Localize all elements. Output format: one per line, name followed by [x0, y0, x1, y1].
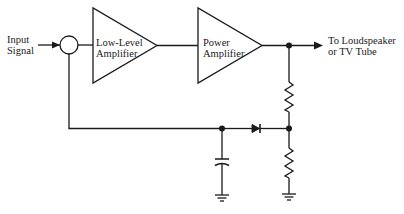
diode-icon — [252, 124, 260, 133]
ground-capacitor-icon — [215, 195, 229, 201]
output-label-line2: or TV Tube — [328, 46, 377, 57]
resistor-lower-icon — [285, 148, 293, 178]
feedback-wire — [69, 54, 222, 129]
power-label-line1: Power — [203, 37, 230, 48]
low-level-label-line2: Amplifier — [96, 48, 137, 59]
summing-junction-icon — [60, 36, 78, 54]
low-level-label-line1: Low-Level — [96, 37, 143, 48]
output-arrow — [262, 42, 323, 50]
input-arrow — [38, 42, 60, 49]
power-label-line2: Amplifier — [203, 48, 244, 59]
schematic — [0, 0, 404, 214]
input-label-line1: Input — [7, 34, 29, 45]
ground-resistor-icon — [282, 194, 296, 200]
feedback-amplifier-diagram: Input Signal Low-Level Amplifier Power A… — [0, 0, 404, 214]
output-label-line1: To Loudspeaker — [328, 35, 396, 46]
resistor-upper-icon — [285, 82, 293, 112]
input-label-line2: Signal — [7, 45, 34, 56]
